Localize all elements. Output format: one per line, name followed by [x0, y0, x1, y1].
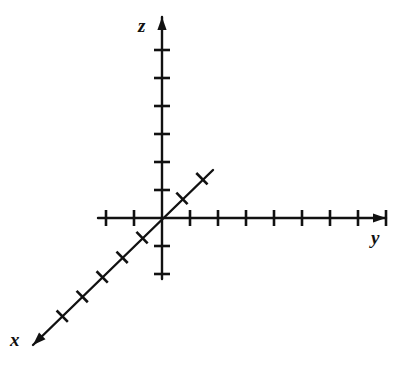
axes-drawing	[0, 0, 409, 367]
arrowhead-y	[373, 213, 386, 222]
axis-label-x: x	[10, 330, 20, 349]
axes-group	[33, 17, 386, 345]
tick-x	[196, 173, 207, 184]
coordinate-axes-figure: z y x	[0, 0, 409, 367]
axis-label-z: z	[138, 16, 145, 35]
axis-x	[33, 170, 213, 345]
axis-y	[98, 210, 386, 226]
arrowhead-z	[157, 17, 166, 30]
axis-z	[154, 17, 170, 279]
axis-label-y: y	[371, 228, 379, 247]
